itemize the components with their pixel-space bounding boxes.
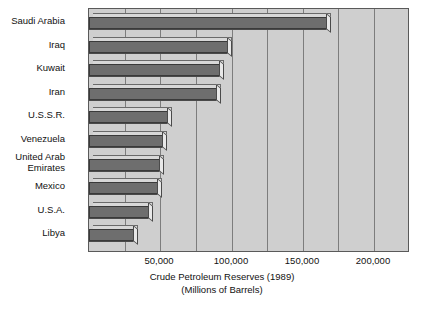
tick-label: 100,000 — [201, 255, 261, 266]
category-label: Saudi Arabia — [11, 15, 65, 26]
bar-end-cap — [227, 37, 232, 57]
category-label: Iraq — [49, 39, 65, 50]
bar-end-cap — [159, 155, 164, 175]
bar-front-face — [89, 135, 163, 147]
bar-end-cap — [219, 60, 224, 80]
bar-front-face — [89, 17, 327, 29]
category-label: Libya — [42, 227, 65, 238]
gridline — [267, 9, 268, 251]
bar-front-face — [89, 111, 168, 123]
bar-end-cap — [162, 131, 167, 151]
bar-front-face — [89, 229, 134, 241]
chart-container: Saudi ArabiaIraqKuwaitIranU.S.S.R.Venezu… — [0, 0, 444, 311]
bar — [89, 178, 162, 194]
bar — [89, 13, 331, 29]
gridline — [232, 9, 233, 251]
gridline — [303, 9, 304, 251]
axis-title-main: Crude Petroleum Reserves (1989) — [0, 271, 444, 284]
axis-caption: Crude Petroleum Reserves (1989) (Million… — [0, 271, 444, 296]
category-label: Mexico — [35, 180, 65, 191]
category-label: United Arab Emirates — [15, 151, 65, 173]
bar — [89, 202, 153, 218]
bar-end-cap — [167, 107, 172, 127]
bar-end-cap — [148, 202, 153, 222]
bar — [89, 225, 138, 241]
plot-area — [88, 8, 409, 252]
bar-front-face — [89, 41, 228, 53]
bar-end-cap — [157, 178, 162, 198]
bar-end-cap — [133, 225, 138, 245]
gridline — [338, 9, 339, 251]
tick-label: 150,000 — [272, 255, 332, 266]
bar — [89, 37, 232, 53]
bar — [89, 84, 221, 100]
bar — [89, 107, 172, 123]
bar-front-face — [89, 206, 149, 218]
bar — [89, 60, 224, 76]
bar-end-cap — [216, 84, 221, 104]
axis-title-units: (Millions of Barrels) — [0, 284, 444, 297]
bar-front-face — [89, 159, 160, 171]
category-label: Iran — [49, 86, 65, 97]
category-label: U.S.A. — [38, 204, 65, 215]
tick-label: 200,000 — [343, 255, 403, 266]
bar — [89, 155, 164, 171]
gridline — [374, 9, 375, 251]
category-label: U.S.S.R. — [28, 109, 65, 120]
bar-front-face — [89, 182, 158, 194]
category-label: Kuwait — [36, 62, 65, 73]
bar-front-face — [89, 88, 217, 100]
bar-front-face — [89, 64, 220, 76]
bar-end-cap — [326, 13, 331, 33]
category-label: Venezuela — [21, 133, 65, 144]
bar — [89, 131, 167, 147]
tick-label: 50,000 — [129, 255, 189, 266]
